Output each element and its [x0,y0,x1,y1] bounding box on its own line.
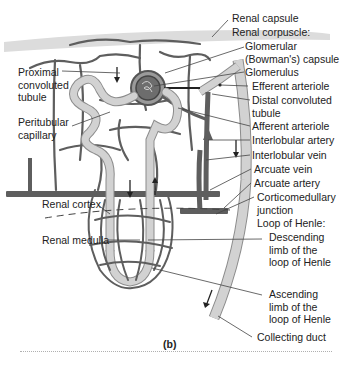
label-text: convoluted [18,79,69,92]
label-renal-corpuscle: Renal corpuscle: [232,26,310,39]
label-arcuate-vein: Arcuate vein [254,163,312,176]
label-interlobular-vein: Interlobular vein [252,149,327,162]
label-text: Efferent arteriole [252,80,329,92]
label-text: limb of the [269,244,331,257]
label-interlobular-artery: Interlobular artery [252,134,334,147]
label-text: Peritubular [18,116,69,129]
label-text: Interlobular artery [252,134,334,146]
label-text: Glomerular [245,40,339,53]
label-text: Corticomedullary [257,191,336,204]
divider [20,351,332,352]
label-text: Loop of Henle: [257,217,325,229]
label-renal-capsule: Renal capsule [232,12,299,25]
label-text: Renal capsule [232,12,299,24]
label-renal-cortex: Renal cortex [42,198,101,211]
label-text: Renal medulla [42,234,109,246]
label-text: tubule [18,91,69,104]
label-text: Afferent arteriole [252,120,329,132]
label-efferent-arteriole: Efferent arteriole [252,80,329,93]
label-proximal-convoluted-tubule: Proximal convoluted tubule [18,66,69,104]
label-text: Distal convoluted [252,94,332,107]
label-collecting-duct: Collecting duct [257,331,326,344]
label-afferent-arteriole: Afferent arteriole [252,120,329,133]
label-text: Arcuate vein [254,163,312,175]
label-text: tubule [252,107,332,120]
label-glomerular-capsule: Glomerular (Bowman's) capsule [245,40,339,65]
label-text: Glomerulus [245,66,299,78]
label-text: (Bowman's) capsule [245,53,339,66]
label-text: Interlobular vein [252,149,327,161]
label-text: Arcuate artery [254,177,320,189]
label-text: Descending [269,231,331,244]
figure-caption: (b) [163,338,176,350]
label-descending-limb: Descending limb of the loop of Henle [269,231,331,269]
label-text: Renal cortex [42,198,101,210]
label-text: capillary [18,129,69,142]
label-peritubular-capillary: Peritubular capillary [18,116,69,141]
label-text: Proximal [18,66,69,79]
label-corticomedullary-junction: Corticomedullary junction [257,191,336,216]
label-text: limb of the [269,301,331,314]
label-text: junction [257,204,336,217]
label-ascending-limb: Ascending limb of the loop of Henle [269,288,331,326]
nephron-diagram: Renal capsule Renal corpuscle: Glomerula… [0,0,350,365]
label-renal-medulla: Renal medulla [42,234,109,247]
label-loop-of-henle: Loop of Henle: [257,217,325,230]
label-glomerulus: Glomerulus [245,66,299,79]
label-text: loop of Henle [269,313,331,326]
label-arcuate-artery: Arcuate artery [254,177,320,190]
label-text: Collecting duct [257,331,326,343]
label-text: loop of Henle [269,256,331,269]
label-distal-convoluted-tubule: Distal convoluted tubule [252,94,332,119]
label-text: Ascending [269,288,331,301]
label-text: Renal corpuscle: [232,26,310,38]
